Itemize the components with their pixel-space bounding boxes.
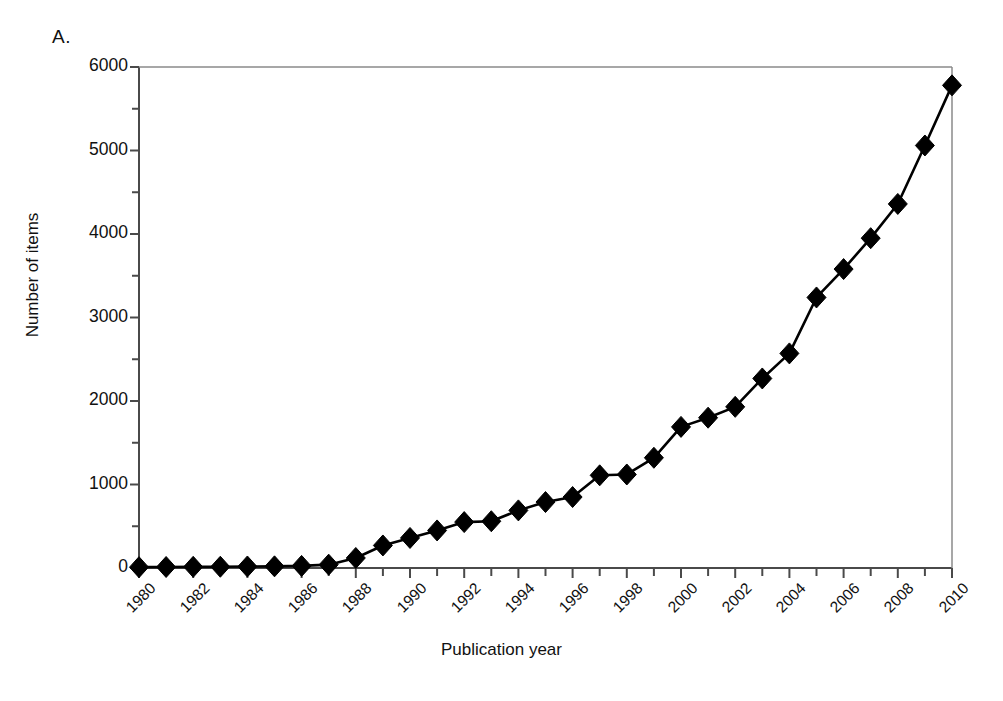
data-point-marker bbox=[346, 547, 365, 568]
data-point-marker bbox=[292, 555, 311, 576]
data-point-marker bbox=[319, 554, 338, 575]
data-point-marker bbox=[184, 556, 203, 577]
y-tick-label: 1000 bbox=[89, 475, 128, 493]
figure-panel-a: A. Number of items Publication year 0100… bbox=[0, 0, 1003, 701]
data-point-marker bbox=[482, 511, 501, 532]
data-point-marker bbox=[590, 465, 609, 486]
y-tick-label: 4000 bbox=[89, 224, 128, 242]
data-point-marker bbox=[455, 512, 474, 533]
y-axis-ticks bbox=[130, 67, 139, 568]
data-point-marker bbox=[509, 500, 528, 521]
y-tick-label: 2000 bbox=[89, 391, 128, 409]
data-point-marker bbox=[265, 556, 284, 577]
data-point-marker bbox=[943, 75, 962, 96]
x-axis-ticks bbox=[139, 568, 952, 578]
data-point-marker bbox=[563, 487, 582, 508]
y-tick-label: 3000 bbox=[89, 308, 128, 326]
data-point-marker bbox=[536, 492, 555, 513]
data-point-marker bbox=[238, 556, 257, 577]
y-tick-label: 5000 bbox=[89, 141, 128, 159]
data-point-marker bbox=[617, 464, 636, 485]
data-series-markers bbox=[130, 75, 962, 578]
y-tick-label: 6000 bbox=[89, 57, 128, 75]
y-tick-label: 0 bbox=[118, 558, 128, 576]
data-point-marker bbox=[428, 520, 447, 541]
data-point-marker bbox=[373, 535, 392, 556]
data-point-marker bbox=[130, 557, 149, 578]
data-point-marker bbox=[401, 527, 420, 548]
data-point-marker bbox=[211, 556, 230, 577]
data-point-marker bbox=[915, 135, 934, 156]
data-point-marker bbox=[699, 407, 718, 428]
data-point-marker bbox=[157, 556, 176, 577]
